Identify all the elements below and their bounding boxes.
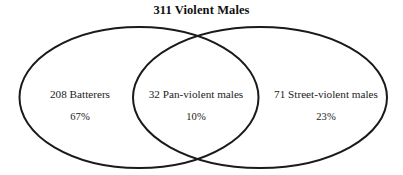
region-label-right-name: 71 Street-violent males — [258, 88, 394, 101]
venn-diagram-figure: 311 Violent Males 208 Batterers 67% 32 P… — [0, 0, 403, 175]
region-label-left-name: 208 Batterers — [22, 88, 138, 101]
region-label-center-name: 32 Pan-violent males — [135, 88, 257, 101]
region-label-center-percent: 10% — [135, 110, 257, 123]
region-label-right-percent: 23% — [258, 110, 394, 123]
region-label-left-percent: 67% — [22, 110, 138, 123]
